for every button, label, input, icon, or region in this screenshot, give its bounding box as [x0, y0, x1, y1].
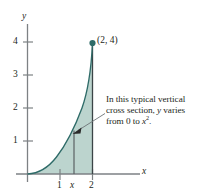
shaded-region: [28, 44, 93, 175]
y-tick-label-3: 3: [13, 69, 18, 79]
x-tick-label-x: x: [70, 180, 74, 190]
y-tick-label-1: 1: [13, 135, 18, 145]
cross-section-annotation: In this typical vertical cross section, …: [106, 94, 206, 128]
annotation-line-3-b: .: [149, 116, 151, 126]
annotation-line-3: from 0 to x2.: [106, 116, 206, 127]
y-tick-label-4: 4: [13, 36, 18, 46]
y-tick-label-2: 2: [13, 102, 18, 112]
point-label-2-4: (2, 4): [97, 35, 118, 45]
annotation-line-2-b: varies: [161, 105, 185, 115]
x-tick-label-1: 1: [57, 180, 62, 190]
annotation-line-3-a: from 0 to: [106, 116, 142, 126]
annotation-line-2-a: cross section,: [106, 105, 157, 115]
annotation-line-1: In this typical vertical: [106, 94, 206, 105]
y-axis-label: y: [22, 11, 26, 21]
x-tick-label-2: 2: [89, 180, 94, 190]
annotation-line-2: cross section, y varies: [106, 105, 206, 116]
x-axis-label: x: [142, 166, 146, 176]
point-marker-2-4: [89, 40, 95, 46]
